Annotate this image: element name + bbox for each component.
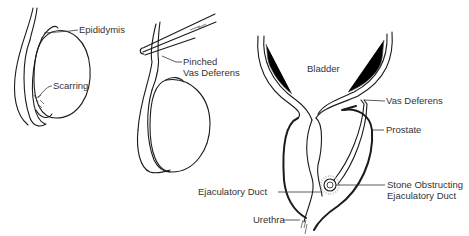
label-bladder: Bladder bbox=[307, 63, 340, 74]
label-prostate: Prostate bbox=[386, 124, 421, 135]
label-pinched-line2: Vas Deferens bbox=[183, 67, 240, 78]
label-vas-deferens: Vas Deferens bbox=[386, 95, 443, 106]
stone-icon bbox=[324, 179, 336, 191]
testis-shape bbox=[34, 31, 90, 118]
label-ejaculatory-duct: Ejaculatory Duct bbox=[198, 186, 268, 197]
label-scarring: Scarring bbox=[53, 80, 88, 91]
label-pinched-line1: Pinched bbox=[183, 56, 217, 67]
label-stone-line2: Ejaculatory Duct bbox=[387, 190, 457, 201]
figure-testis-pinched bbox=[138, 14, 217, 173]
label-urethra: Urethra bbox=[253, 214, 285, 225]
label-stone-line1: Stone Obstructing bbox=[387, 179, 463, 190]
testis-shape bbox=[150, 79, 210, 172]
anatomy-diagram: Epididymis Scarring Pinched Vas Deferens bbox=[0, 0, 469, 236]
label-epididymis: Epididymis bbox=[79, 24, 125, 35]
